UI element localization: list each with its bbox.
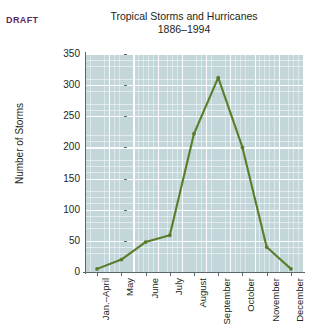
- x-tick-mark: [267, 273, 268, 276]
- x-tick-label: July: [174, 278, 184, 295]
- x-tick-label: October: [246, 278, 256, 312]
- x-tick-label: December: [295, 278, 305, 322]
- x-tick-mark: [218, 273, 219, 276]
- x-tick-label: September: [222, 278, 232, 324]
- x-tick-mark: [242, 273, 243, 276]
- x-tick-mark: [146, 273, 147, 276]
- x-tick-label: May: [125, 278, 135, 296]
- x-tick-label: Jan.–April: [101, 278, 111, 320]
- x-tick-mark: [97, 273, 98, 276]
- x-tick-label: June: [150, 278, 160, 299]
- x-tick-mark: [194, 273, 195, 276]
- x-tick-mark: [121, 273, 122, 276]
- x-tick-label: November: [271, 278, 281, 322]
- x-tick-mark: [291, 273, 292, 276]
- x-tick-mark: [170, 273, 171, 276]
- x-axis-ticks: Jan.–AprilMayJuneJulyAugustSeptemberOcto…: [0, 0, 313, 330]
- x-tick-label: August: [198, 278, 208, 308]
